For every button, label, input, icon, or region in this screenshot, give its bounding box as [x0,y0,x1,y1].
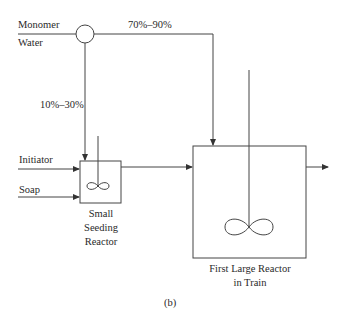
large-reactor-label-line: First Large Reactor [199,263,301,275]
seeding-reactor-label-line: Reactor [70,236,132,248]
split-major-label: 70%–90% [128,19,172,31]
seeding-reactor-label-line: Seeding [70,222,132,234]
seeding-reactor-label: Small Seeding Reactor [70,208,132,248]
soap-label: Soap [19,184,40,196]
main-split-line [94,34,213,145]
initiator-label: Initiator [19,154,53,166]
figure-caption: (b) [164,297,176,309]
water-label: Water [18,37,43,49]
splitter-valve-icon [76,25,94,43]
monomer-label: Monomer [18,19,59,31]
large-reactor-label: First Large Reactor in Train [199,263,301,289]
seeding-reactor-label-line: Small [70,208,132,220]
split-minor-label: 10%–30% [40,99,84,111]
seeding-reactor-vessel [80,161,121,203]
large-reactor-label-line: in Train [199,277,301,289]
